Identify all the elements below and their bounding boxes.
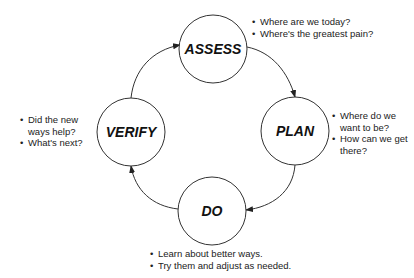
node-do: DO	[178, 177, 246, 245]
node-label-plan: PLAN	[276, 123, 315, 139]
notes-assess: Where are we today? Where's the greatest…	[252, 16, 412, 39]
notes-plan: Where do we want to be? How can we get t…	[332, 110, 412, 156]
note-item: Did the new ways help?	[20, 114, 92, 137]
note-item: Where are we today?	[252, 16, 412, 28]
note-item: Where do we want to be?	[332, 110, 412, 133]
node-label-verify: VERIFY	[106, 124, 158, 140]
node-assess: ASSESS	[179, 15, 247, 83]
node-label-assess: ASSESS	[184, 41, 242, 57]
note-item: What's next?	[20, 137, 92, 149]
note-item: Learn about better ways.	[150, 248, 330, 260]
arrow-verify-to-assess	[131, 45, 180, 98]
notes-do: Learn about better ways. Try them and ad…	[150, 248, 330, 271]
arrow-do-to-verify	[131, 166, 178, 209]
node-verify: VERIFY	[97, 98, 165, 166]
notes-verify: Did the new ways help? What's next?	[20, 114, 92, 149]
note-item: Try them and adjust as needed.	[150, 260, 330, 272]
note-item: Where's the greatest pain?	[252, 28, 412, 40]
arrow-assess-to-plan	[247, 47, 295, 97]
node-plan: PLAN	[261, 97, 329, 165]
node-label-do: DO	[202, 203, 223, 219]
note-item: How can we get there?	[332, 133, 412, 156]
arrow-plan-to-do	[246, 165, 295, 210]
